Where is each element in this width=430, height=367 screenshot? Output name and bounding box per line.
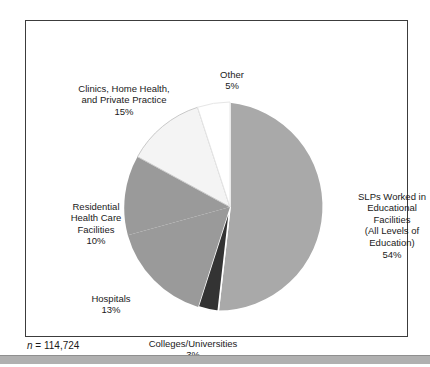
slice-label-hospitals: Hospitals 13% [66,281,156,327]
slice-label-slps-educational: SLPs Worked in Educational Facilities (A… [336,179,430,272]
slice-label-clinics-percent: 15% [48,106,200,118]
slice-label-clinics-home-health: Clinics, Home Health, and Private Practi… [48,71,200,129]
slice-label-other-percent: 5% [189,80,275,92]
slice-label-colleges-text: Colleges/Universities [149,338,238,349]
slice-label-other-text: Other [220,69,244,80]
pie-chart-figure: Other 5% Clinics, Home Health, and Priva… [0,0,430,367]
chart-frame: Other 5% Clinics, Home Health, and Priva… [25,20,408,337]
slice-label-hospitals-percent: 13% [66,304,156,316]
slice-label-residential-text: Residential Health Care Facilities [71,201,122,235]
slice-label-clinics-text: Clinics, Home Health, and Private Practi… [78,83,169,106]
sample-size-footnote: n = 114,724 [27,339,79,352]
slice-label-residential-health-care: Residential Health Care Facilities 10% [48,189,144,259]
slice-label-slps-percent: 54% [336,249,430,261]
sample-size-value: = 114,724 [33,340,80,351]
pie-slices [124,102,323,311]
slice-label-hospitals-text: Hospitals [91,293,130,304]
slice-label-residential-percent: 10% [48,235,144,247]
bottom-decorative-bar [0,356,430,364]
slice-label-other: Other 5% [189,57,275,103]
slice-slps-educational [218,102,323,311]
slice-label-slps-text: SLPs Worked in Educational Facilities (A… [358,191,426,248]
